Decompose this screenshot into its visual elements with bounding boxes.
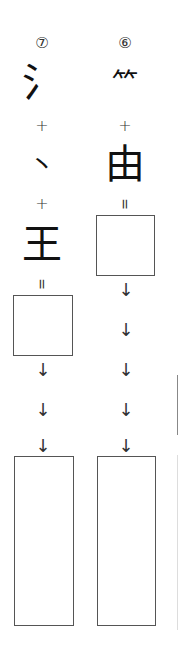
down-arrow-icon: ↓ — [111, 281, 141, 299]
component-king: 王 — [17, 224, 67, 264]
radical-bamboo: ⺮ — [100, 70, 150, 96]
plus-sign: + — [27, 118, 57, 134]
radical-water: 氵 — [17, 62, 67, 102]
edge-line-faint — [177, 455, 178, 630]
down-arrow-icon: ↓ — [111, 321, 141, 339]
plus-sign: + — [27, 196, 57, 212]
component-reason: 由 — [100, 144, 150, 184]
answer-box-small-7[interactable] — [13, 295, 73, 356]
answer-box-small-6[interactable] — [96, 215, 155, 276]
answer-box-tall-7[interactable] — [14, 456, 74, 626]
down-arrow-icon: ↓ — [111, 437, 141, 455]
down-arrow-icon: ↓ — [28, 401, 58, 419]
problem-number-6: ⑥ — [110, 36, 140, 51]
down-arrow-icon: ↓ — [111, 361, 141, 379]
component-dot: 丶 — [17, 152, 67, 178]
problem-number-7: ⑦ — [27, 36, 57, 51]
down-arrow-icon: ↓ — [28, 361, 58, 379]
down-arrow-icon: ↓ — [28, 437, 58, 455]
down-arrow-icon: ↓ — [111, 401, 141, 419]
answer-box-tall-6[interactable] — [97, 456, 156, 626]
edge-line — [177, 375, 178, 435]
plus-sign: + — [110, 118, 140, 134]
